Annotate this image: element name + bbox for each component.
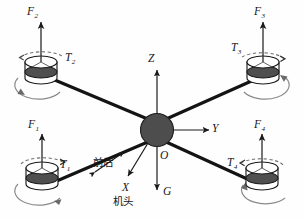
rotor-3-force-label: F3 <box>254 6 265 20</box>
rotor-3-group <box>242 22 289 99</box>
nose-label: 机头 <box>113 196 134 207</box>
diagram-canvas <box>0 0 304 218</box>
axis-g-label: G <box>163 186 171 198</box>
axis-x-label: X <box>122 182 129 194</box>
rotor-4-torque-label: T4 <box>227 157 237 171</box>
quadrotor-diagram: F2 F3 F1 F4 T2 T3 T1 T4 Z Y X G O 前后 机头 <box>0 0 304 218</box>
rotor-2-group <box>15 22 62 99</box>
fore-aft-label: 前后 <box>93 157 114 168</box>
axis-y-label: Y <box>212 123 218 135</box>
rotor-2-force-label: F2 <box>27 6 38 20</box>
rotor-3-torque-label: T3 <box>231 42 241 56</box>
rotor-2-torque-label: T2 <box>65 52 75 66</box>
rotor-1-group <box>15 134 65 205</box>
origin-label: O <box>160 150 168 162</box>
rotor-4-group <box>240 134 285 204</box>
rotor-1-torque-label: T1 <box>60 159 70 173</box>
rotor-4-force-label: F4 <box>254 119 265 133</box>
arm-to-rotor-2 <box>50 78 150 120</box>
axis-z-label: Z <box>148 53 154 65</box>
rotor-1-force-label: F1 <box>28 119 39 133</box>
center-hub <box>141 114 174 147</box>
arm-to-rotor-3 <box>164 79 256 120</box>
